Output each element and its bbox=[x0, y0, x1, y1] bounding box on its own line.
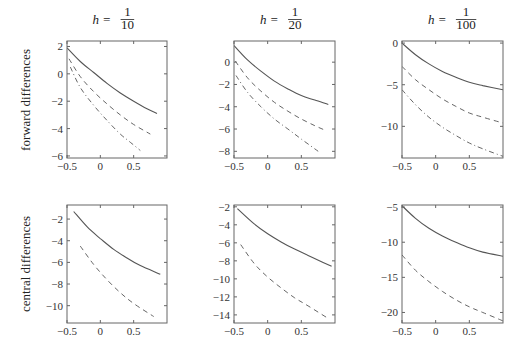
y-tick-label: 0 bbox=[58, 68, 64, 80]
x-tick-label: 0.5 bbox=[462, 325, 476, 337]
subplot-5: −0.500.5−2−4−6−8−10−12−14 bbox=[213, 201, 335, 337]
y-tick-label: −14 bbox=[213, 309, 231, 321]
series-solid-line bbox=[402, 206, 503, 257]
series-solid-line bbox=[402, 43, 503, 90]
svg-text:10: 10 bbox=[121, 17, 134, 32]
subplot-3: −0.500.50−5−10h =1100 bbox=[381, 4, 503, 172]
series-solid-line bbox=[67, 48, 157, 114]
axes-frame bbox=[234, 41, 335, 158]
series-dashed-line bbox=[80, 246, 153, 316]
series-solid-line bbox=[74, 212, 161, 275]
axes-frame bbox=[234, 205, 335, 323]
y-tick-label: −8 bbox=[218, 255, 230, 267]
subplot-6: −0.500.5−5−10−15−20 bbox=[381, 201, 503, 337]
y-tick-label: −20 bbox=[381, 306, 399, 318]
series-dashed-line bbox=[241, 245, 329, 319]
svg-text:h =: h = bbox=[428, 12, 447, 27]
y-tick-label: −2 bbox=[51, 95, 63, 107]
x-tick-label: 0 bbox=[433, 160, 439, 172]
series-solid-line bbox=[237, 209, 331, 267]
y-tick-label: −6 bbox=[218, 123, 230, 135]
row-label-forward: forward differences bbox=[18, 49, 33, 151]
y-tick-label: −2 bbox=[218, 78, 230, 90]
y-tick-label: 0 bbox=[393, 37, 399, 49]
subplot-2: −0.500.50−2−4−6−8h =120 bbox=[218, 4, 335, 172]
x-tick-label: −0.5 bbox=[57, 325, 77, 337]
y-tick-label: −5 bbox=[386, 79, 398, 91]
series-dashdot-line bbox=[402, 90, 503, 157]
x-tick-label: −0.5 bbox=[224, 160, 244, 172]
subplot-4: −0.500.5−2−4−6−8−10 bbox=[46, 205, 167, 337]
y-tick-label: 2 bbox=[58, 40, 64, 52]
x-tick-label: 0 bbox=[433, 325, 439, 337]
y-tick-label: −6 bbox=[218, 237, 230, 249]
y-tick-label: −4 bbox=[51, 123, 63, 135]
y-tick-label: 0 bbox=[225, 56, 231, 68]
y-tick-label: −10 bbox=[381, 236, 399, 248]
svg-text:h =: h = bbox=[92, 12, 111, 27]
x-tick-label: 0 bbox=[265, 325, 271, 337]
y-tick-label: −4 bbox=[218, 101, 230, 113]
subplot-title: h =1100 bbox=[428, 4, 476, 32]
y-tick-label: −2 bbox=[218, 201, 230, 213]
x-tick-label: 0 bbox=[98, 325, 104, 337]
series-dashdot-line bbox=[70, 67, 140, 151]
axes-frame bbox=[67, 41, 167, 158]
subplot-1: −0.500.520−2−4−6h =110 bbox=[51, 4, 167, 172]
y-tick-label: −5 bbox=[386, 201, 398, 213]
axes-frame bbox=[402, 205, 503, 323]
x-tick-label: 0 bbox=[98, 160, 104, 172]
y-tick-label: −12 bbox=[213, 291, 230, 303]
x-tick-label: 0.5 bbox=[127, 160, 141, 172]
series-dashed-line bbox=[402, 255, 503, 321]
series-dashed-line bbox=[402, 66, 503, 123]
y-tick-label: −10 bbox=[213, 273, 231, 285]
svg-text:h =: h = bbox=[260, 12, 279, 27]
y-tick-label: −6 bbox=[51, 256, 63, 268]
x-tick-label: 0.5 bbox=[127, 325, 141, 337]
series-solid-line bbox=[234, 46, 328, 105]
y-tick-label: −4 bbox=[51, 235, 63, 247]
y-tick-label: −8 bbox=[51, 278, 63, 290]
y-tick-label: −2 bbox=[51, 213, 63, 225]
axes-frame bbox=[402, 41, 503, 158]
x-tick-label: −0.5 bbox=[392, 160, 412, 172]
row-label-central: central differences bbox=[18, 216, 33, 312]
x-tick-label: 0.5 bbox=[294, 160, 308, 172]
series-dashdot-line bbox=[236, 76, 318, 152]
y-tick-label: −15 bbox=[381, 271, 399, 283]
y-tick-label: −8 bbox=[218, 145, 230, 157]
subplot-grid: −0.500.520−2−4−6h =110−0.500.50−2−4−6−8h… bbox=[46, 4, 503, 337]
x-tick-label: −0.5 bbox=[224, 325, 244, 337]
svg-text:20: 20 bbox=[288, 17, 301, 32]
x-tick-label: 0.5 bbox=[294, 325, 308, 337]
y-tick-label: −10 bbox=[46, 300, 64, 312]
y-tick-label: −6 bbox=[51, 150, 63, 162]
series-dashed-line bbox=[235, 61, 325, 130]
axes-frame bbox=[67, 205, 167, 323]
y-tick-label: −10 bbox=[381, 120, 399, 132]
subplot-title: h =110 bbox=[92, 4, 134, 32]
x-tick-label: 0 bbox=[265, 160, 271, 172]
x-tick-label: 0.5 bbox=[462, 160, 476, 172]
x-tick-label: −0.5 bbox=[392, 325, 412, 337]
y-tick-label: −4 bbox=[218, 219, 230, 231]
figure-canvas: forward differences central differences … bbox=[0, 0, 523, 356]
subplot-title: h =120 bbox=[260, 4, 302, 32]
svg-text:100: 100 bbox=[456, 17, 476, 32]
